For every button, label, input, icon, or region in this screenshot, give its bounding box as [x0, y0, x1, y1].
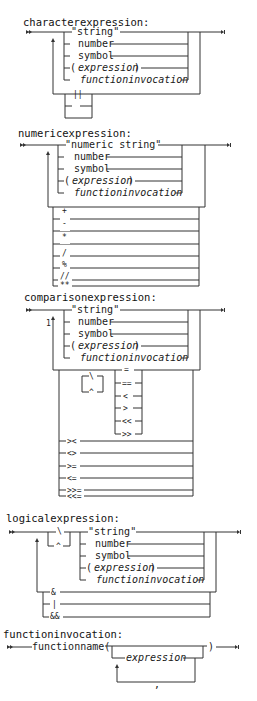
footnote-marker: 1: [46, 319, 51, 328]
operator-strict-eq: ==: [122, 379, 132, 388]
operand-number: number: [74, 151, 110, 162]
operand-symbol: symbol: [78, 50, 114, 61]
operand-functioninvocation: functioninvocation: [96, 574, 204, 585]
operand-expression: expression: [78, 62, 138, 73]
end-marker-icon: [221, 308, 225, 312]
end-marker-icon: [221, 30, 225, 34]
operand-number: number: [78, 38, 114, 49]
characterexpression-diagram: characterexpression: "string" number sym…: [23, 16, 225, 118]
operator-multiply: *: [62, 233, 67, 242]
paren-open: (: [86, 562, 92, 573]
operator-plus: +: [62, 206, 67, 215]
diagram-title: logicalexpression:: [6, 512, 120, 524]
operator-list: + - * / % // **: [53, 206, 199, 290]
operator-gte: >=: [67, 462, 77, 471]
argument-expression: expression: [126, 652, 186, 663]
operator-eq: =: [124, 365, 129, 374]
operand-number: number: [95, 538, 131, 549]
numericexpression-diagram: numericexpression: "numeric string" numb…: [18, 127, 231, 290]
operand-symbol: symbol: [74, 163, 110, 174]
loop-arrow-icon: [51, 316, 55, 320]
operator-not-eq-1: ><: [67, 437, 77, 446]
operand-numeric-string: "numeric string": [65, 139, 161, 150]
operator-integer-divide: //: [60, 272, 70, 281]
paren-open: (: [70, 62, 76, 73]
operator-strict-lte: <<=: [67, 492, 82, 501]
operand-symbol: symbol: [78, 328, 114, 339]
operand-functioninvocation: functioninvocation: [80, 352, 188, 363]
operator-xor: &&: [50, 612, 60, 621]
diagram-title: comparisonexpression:: [24, 291, 157, 303]
paren-open: (: [70, 340, 76, 351]
operand-expression: expression: [94, 562, 154, 573]
operand-string: "string": [71, 304, 119, 315]
operator-lt: <: [123, 392, 128, 401]
operator-minus: -: [62, 219, 67, 228]
operator-concat: ||: [73, 90, 83, 99]
operator-remainder: %: [62, 260, 67, 269]
comparisonexpression-diagram: comparisonexpression: 1 "string" number …: [24, 291, 225, 501]
operand-string: "string": [88, 526, 136, 537]
logicalexpression-diagram: logicalexpression: \ ^ "string" number s…: [6, 512, 241, 621]
operand-functioninvocation: functioninvocation: [74, 187, 182, 198]
negation-caret: ^: [89, 388, 94, 397]
operator-not-eq-2: <>: [67, 449, 77, 458]
loop-arrow-icon: [51, 38, 55, 42]
operand-expression: expression: [78, 340, 138, 351]
operator-strict-lt: <<: [122, 417, 132, 426]
end-marker-icon: [237, 530, 241, 534]
operand-string: "string": [71, 26, 119, 37]
paren-close: ): [134, 340, 140, 351]
operand-functioninvocation: functioninvocation: [80, 74, 188, 85]
operand-symbol: symbol: [95, 550, 131, 561]
operator-strict-gt: >>: [122, 430, 132, 439]
operator-or: |: [52, 600, 57, 609]
negation-caret: ^: [56, 542, 61, 551]
operator-and: &: [51, 588, 56, 597]
functioninvocation-diagram: functioninvocation: functionname( expres…: [3, 628, 239, 690]
function-name: functionname(: [32, 641, 110, 652]
operator-gt: >: [123, 404, 128, 413]
operator-divide: /: [62, 249, 67, 258]
end-marker-icon: [235, 645, 239, 649]
negation-backslash: \: [89, 372, 94, 381]
syntax-diagrams: characterexpression: "string" number sym…: [0, 0, 257, 701]
end-marker-icon: [227, 143, 231, 147]
operator-power: **: [60, 281, 70, 290]
operand-expression: expression: [72, 175, 132, 186]
paren-close: ): [134, 62, 140, 73]
operator-lte: <=: [67, 474, 77, 483]
paren-close: ): [208, 641, 214, 652]
diagram-title: numericexpression:: [18, 127, 132, 139]
paren-close: ): [150, 562, 156, 573]
negation-backslash: \: [57, 527, 62, 536]
loop-arrow-icon: [46, 151, 50, 155]
operand-number: number: [78, 316, 114, 327]
loop-arrow-icon: [115, 664, 119, 668]
diagram-title: functioninvocation:: [3, 628, 123, 640]
loop-arrow-icon: [35, 538, 39, 542]
paren-close: ): [128, 175, 134, 186]
paren-open: (: [64, 175, 70, 186]
argument-separator: ,: [154, 679, 160, 690]
